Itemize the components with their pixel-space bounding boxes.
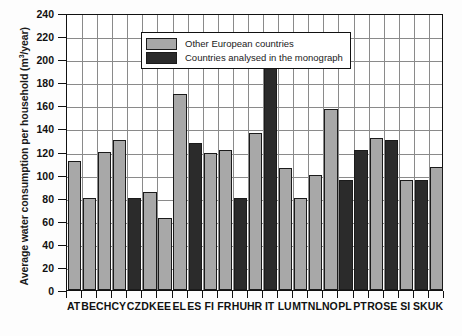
y-axis-tick-label: 20 [0, 262, 54, 274]
x-axis-tick-label-mt: MT [292, 300, 307, 312]
y-axis-tick-label: 200 [0, 54, 54, 66]
x-axis-tick [368, 291, 369, 298]
y-axis-tick [58, 129, 66, 130]
legend-item-other-european: Other European countries [146, 37, 343, 50]
y-axis-tick-label: 180 [0, 77, 54, 89]
x-axis-tick [81, 291, 82, 298]
x-axis-tick [428, 291, 429, 298]
legend-label-monograph: Countries analysed in the monograph [185, 52, 343, 63]
chart-figure: Average water consumption per household … [0, 0, 462, 336]
gridline-horizontal [67, 84, 442, 85]
bar-be [83, 198, 96, 290]
bar-dk [143, 192, 156, 290]
y-axis-tick [58, 222, 66, 223]
bar-ch [98, 152, 111, 291]
x-axis-tick-label-ee: EE [157, 300, 171, 312]
y-axis-tick-label: 40 [0, 239, 54, 251]
x-axis-tick-label-cy: CY [111, 300, 126, 312]
y-axis-tick-label: 0 [0, 285, 54, 297]
x-axis-tick-label-fi: FI [205, 300, 214, 312]
x-axis-tick-label-fr: FR [217, 300, 231, 312]
bar-cz [128, 198, 141, 290]
bar-uk [430, 167, 443, 290]
bar-es [189, 143, 202, 290]
bar-el [173, 94, 186, 290]
y-axis-tick [58, 83, 66, 84]
y-axis-tick-label: 220 [0, 31, 54, 43]
bar-si [400, 180, 413, 290]
x-axis-tick-label-at: AT [67, 300, 80, 312]
y-axis-tick-label: 140 [0, 123, 54, 135]
x-axis-tick [307, 291, 308, 298]
bar-nl [309, 175, 322, 290]
x-axis-tick [156, 291, 157, 298]
x-axis-tick [66, 291, 67, 298]
legend-item-monograph: Countries analysed in the monograph [146, 51, 343, 64]
x-axis-tick [126, 291, 127, 298]
y-axis-tick [58, 60, 66, 61]
x-axis-tick [262, 291, 263, 298]
x-axis-tick-label-si: SI [400, 300, 410, 312]
x-axis-tick-label-el: EL [172, 300, 185, 312]
x-axis-tick-label-pl: PL [338, 300, 351, 312]
y-axis-tick [58, 176, 66, 177]
y-axis-tick [58, 37, 66, 38]
bar-it [264, 34, 277, 290]
y-axis-tick [58, 199, 66, 200]
bar-cy [113, 140, 126, 290]
x-axis-tick-label-hr: HR [247, 300, 262, 312]
bar-at [68, 161, 81, 290]
x-axis-tick-label-no: NO [322, 300, 338, 312]
y-axis-tick [58, 268, 66, 269]
legend-label-other-european: Other European countries [185, 38, 294, 49]
bar-no [324, 109, 337, 290]
bar-fi [204, 153, 217, 290]
x-axis-tick [187, 291, 188, 298]
y-axis-tick-label: 60 [0, 216, 54, 228]
bar-se [385, 140, 398, 290]
x-axis-tick [217, 291, 218, 298]
x-axis-tick-label-sk: SK [413, 300, 428, 312]
bar-mt [294, 198, 307, 290]
x-axis-tick-label-cz: CZ [127, 300, 141, 312]
x-axis-tick [413, 291, 414, 298]
x-axis-tick-label-dk: DK [141, 300, 156, 312]
x-axis-tick [232, 291, 233, 298]
bar-pl [339, 180, 352, 290]
x-axis-tick [353, 291, 354, 298]
y-axis-tick-label: 120 [0, 147, 54, 159]
x-axis-tick [202, 291, 203, 298]
x-axis-tick-label-it: IT [265, 300, 274, 312]
gridline-horizontal [67, 130, 442, 131]
x-axis-tick-label-nl: NL [308, 300, 322, 312]
plot-area: Other European countries Countries analy… [66, 14, 443, 291]
x-axis-tick-label-uk: UK [428, 300, 443, 312]
x-axis-tick [443, 291, 444, 298]
y-axis-tick-label: 240 [0, 8, 54, 20]
x-axis-tick [247, 291, 248, 298]
x-axis-tick-label-se: SE [383, 300, 397, 312]
bar-lu [279, 168, 292, 290]
x-axis-tick [322, 291, 323, 298]
x-axis-tick-label-es: ES [187, 300, 201, 312]
legend-swatch-monograph [146, 52, 177, 64]
x-axis-tick [172, 291, 173, 298]
bar-fr [219, 150, 232, 290]
x-axis-tick [292, 291, 293, 298]
x-axis-tick-label-ro: RO [367, 300, 383, 312]
bar-ee [158, 218, 171, 290]
x-axis-tick-label-lu: LU [278, 300, 292, 312]
legend-swatch-other-european [146, 38, 177, 50]
gridline-horizontal [67, 107, 442, 108]
chart-legend: Other European countries Countries analy… [141, 32, 351, 69]
bar-sk [415, 180, 428, 290]
bar-hr [249, 133, 262, 290]
x-axis-tick-label-pt: PT [353, 300, 366, 312]
bar-hu [234, 198, 247, 290]
x-axis-tick [398, 291, 399, 298]
y-axis-tick [58, 245, 66, 246]
y-axis-tick [58, 291, 66, 292]
x-axis-tick-label-ch: CH [96, 300, 111, 312]
x-axis-tick [277, 291, 278, 298]
x-axis-tick [141, 291, 142, 298]
